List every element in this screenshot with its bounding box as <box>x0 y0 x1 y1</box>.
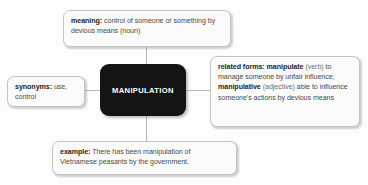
connector-synonyms-to-center <box>85 90 101 91</box>
center-node-manipulation: MANIPULATION <box>100 64 186 116</box>
node-related-forms-term-two: manipulative <box>218 83 261 91</box>
connector-center-to-example <box>146 116 147 142</box>
node-synonyms-label: synonyms: <box>15 83 52 91</box>
connector-center-to-meaning <box>146 47 147 65</box>
connector-center-to-related-forms <box>186 90 211 91</box>
node-related-forms-pos-two: (adjective) <box>261 83 295 91</box>
center-node-label: MANIPULATION <box>112 86 174 95</box>
word-map-diagram: meaning: control of someone or something… <box>0 0 368 185</box>
node-related-forms-pos-one: (verb) <box>303 63 323 71</box>
node-example-label: example: <box>60 148 90 156</box>
node-meaning: meaning: control of someone or something… <box>63 10 231 47</box>
node-synonyms: synonyms: use, control <box>7 76 85 107</box>
node-related-forms-label: related forms: <box>218 63 265 71</box>
node-example: example: There has been manipulation of … <box>52 141 237 175</box>
node-meaning-label: meaning: <box>71 17 102 25</box>
node-related-forms-term-one: manipulate <box>265 63 304 71</box>
node-related-forms: related forms: manipulate (verb) to mana… <box>210 56 360 127</box>
